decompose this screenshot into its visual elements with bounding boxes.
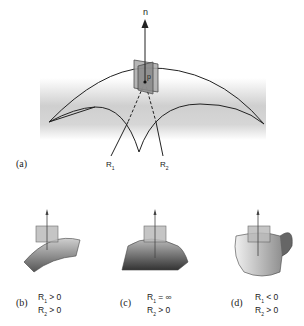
condition-d: R1 < 0 R2 > 0 <box>255 293 278 318</box>
surface-b <box>24 209 80 272</box>
point-label: p <box>147 72 151 81</box>
normal-label: n <box>143 8 148 17</box>
panel-label-a: (a) <box>16 158 27 169</box>
surface-d <box>235 209 292 276</box>
r1-label: R1 <box>106 160 115 173</box>
tangent-planes <box>134 60 158 94</box>
panel-label-d: (d) <box>231 297 243 308</box>
surface-c <box>122 209 188 270</box>
curvature-diagram <box>0 0 304 326</box>
r2-label: R2 <box>160 160 169 173</box>
panel-label-b: (b) <box>16 297 28 308</box>
condition-c: R1 = ∞ R2 > 0 <box>147 293 172 318</box>
condition-b: R1 > 0 R2 > 0 <box>38 293 61 318</box>
panel-label-c: (c) <box>120 297 131 308</box>
